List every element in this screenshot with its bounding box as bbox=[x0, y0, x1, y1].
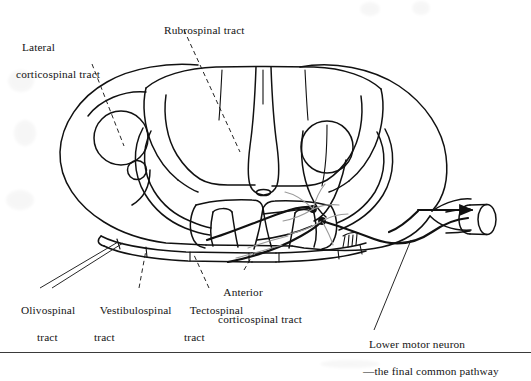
leader-tectospinal bbox=[194, 255, 209, 288]
label-line-1: Rubrospinal tract bbox=[164, 24, 245, 36]
label-vestibulospinal-tract: Vestibulospinal tract bbox=[94, 291, 172, 357]
scan-artifact bbox=[14, 120, 36, 146]
grey-matter bbox=[144, 67, 383, 250]
dendrites bbox=[236, 184, 348, 258]
label-line-2: corticospinal tract bbox=[218, 313, 302, 326]
label-line-1: Olivospinal bbox=[21, 304, 75, 316]
leader-olivospinal-a bbox=[40, 242, 118, 288]
label-line-1: Vestibulospinal bbox=[100, 304, 172, 316]
label-line-2: tract bbox=[15, 331, 75, 344]
scan-artifact bbox=[6, 190, 34, 210]
motor-end-plate-icon bbox=[343, 233, 358, 247]
label-lateral-corticospinal-tract: Lateral corticospinal tract bbox=[16, 28, 100, 94]
leader-rubrospinal bbox=[184, 30, 240, 152]
leader-olivospinal-b bbox=[52, 243, 123, 288]
label-line-2: tract bbox=[94, 331, 172, 344]
label-olivospinal-tract: Olivospinal tract bbox=[15, 291, 75, 357]
label-anterior-corticospinal-tract: Anterior corticospinal tract bbox=[218, 273, 302, 339]
label-line-2: corticospinal tract bbox=[16, 68, 100, 81]
label-lower-motor-neuron: Lower motor neuron —the final common pat… bbox=[363, 325, 499, 381]
label-line-1: Lateral bbox=[22, 41, 55, 53]
label-line-1: Anterior bbox=[223, 286, 262, 298]
left-tract-circles bbox=[88, 92, 150, 205]
scan-artifact bbox=[360, 2, 380, 16]
label-line-1: Lower motor neuron bbox=[369, 338, 465, 350]
label-rubrospinal-tract: Rubrospinal tract bbox=[158, 11, 245, 37]
label-line-2: —the final common pathway bbox=[363, 365, 499, 378]
leader-lower-motor-neuron bbox=[374, 240, 411, 330]
scan-artifact bbox=[412, 1, 430, 15]
